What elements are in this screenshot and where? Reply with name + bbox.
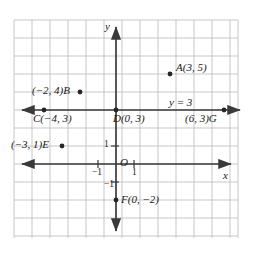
point-label-E: (−3, 1)E xyxy=(11,139,49,150)
point-F xyxy=(114,198,119,203)
y-axis-label: y xyxy=(105,21,110,32)
tick-label-y-one: 1 xyxy=(104,140,109,150)
point-B xyxy=(78,90,83,95)
point-label-A: A(3, 5) xyxy=(176,62,207,73)
tick-label-y-neg-one: −1 xyxy=(104,180,114,190)
point-label-B: (−2, 4)B xyxy=(32,85,70,96)
point-G xyxy=(222,108,227,113)
coordinate-plane-canvas xyxy=(0,0,255,254)
point-A xyxy=(168,72,173,77)
coordinate-plane-figure: A(3, 5) (−2, 4)B C(−4, 3) D(0, 3) (6, 3)… xyxy=(0,0,255,254)
origin-label: O xyxy=(120,157,128,168)
point-label-D: D(0, 3) xyxy=(113,113,145,124)
x-axis-label: x xyxy=(223,170,228,181)
tick-label-x-one: 1 xyxy=(132,168,137,178)
tick-label-x-neg-one: −1 xyxy=(92,168,102,178)
grid-lines xyxy=(14,20,238,238)
point-label-F: F(0, −2) xyxy=(121,194,159,205)
point-E xyxy=(60,144,65,149)
point-label-G: (6, 3)G xyxy=(185,113,217,124)
point-label-C: C(−4, 3) xyxy=(33,113,72,124)
line-equation-label: y = 3 xyxy=(169,97,192,108)
